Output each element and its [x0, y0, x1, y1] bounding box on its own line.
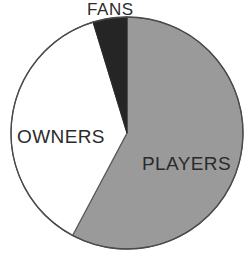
- pie-label-fans: FANS: [87, 1, 134, 18]
- pie-chart-figure: FANS OWNERS PLAYERS: [0, 0, 252, 255]
- pie-label-owners: OWNERS: [17, 127, 105, 146]
- pie-label-players: PLAYERS: [142, 154, 231, 173]
